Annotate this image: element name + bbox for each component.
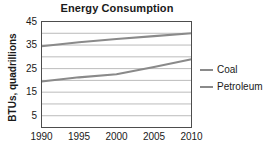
series-line-petroleum [42,33,192,46]
x-tick-label: 2010 [175,131,209,143]
series-lines [42,33,192,81]
x-tick-label: 1990 [25,131,59,143]
x-tick-label: 1995 [62,131,96,143]
y-tick-label: 25 [13,64,37,74]
x-tick-label: 2005 [137,131,171,143]
y-tick-label: 45 [13,17,37,27]
legend-swatch-line-icon [200,69,213,71]
legend-label: Coal [217,64,238,75]
y-axis-tick-labels: 515253545 [9,21,37,128]
legend-item-petroleum[interactable]: Petroleum [200,79,276,94]
series-line-coal [42,59,192,81]
energy-consumption-chart: Energy Consumption BTUs, quadrillions 51… [0,0,276,156]
chart-title: Energy Consumption [41,2,193,14]
y-tick-label: 35 [13,40,37,50]
legend-label: Petroleum [217,81,263,92]
plot-area [41,21,192,128]
chart-legend: CoalPetroleum [200,62,276,96]
x-tick-label: 2000 [100,131,134,143]
x-axis-tick-labels: 19901995200020052010 [41,131,192,145]
legend-swatch-line-icon [200,86,213,88]
plot-svg [41,21,192,128]
y-tick-label: 5 [13,111,37,121]
y-tick-label: 15 [13,87,37,97]
legend-item-coal[interactable]: Coal [200,62,276,77]
